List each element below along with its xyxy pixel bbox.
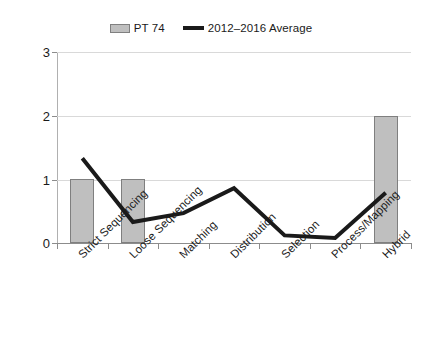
x-tick-mark-1 xyxy=(108,244,109,249)
x-tick-mark-0 xyxy=(57,244,58,249)
x-tick-mark-6 xyxy=(360,244,361,249)
chart-legend: PT 74 2012–2016 Average xyxy=(0,22,422,34)
average-line-series xyxy=(57,52,411,243)
legend-item-pt74: PT 74 xyxy=(110,22,165,34)
y-tick-1: 1 xyxy=(30,173,50,188)
chart-container: PT 74 2012–2016 Average 0 1 2 3 Strict S… xyxy=(0,0,422,352)
x-tick-mark-5 xyxy=(310,244,311,249)
y-axis-ticks: 0 1 2 3 xyxy=(30,0,50,352)
average-line-path xyxy=(82,158,385,238)
x-tick-mark-4 xyxy=(259,244,260,249)
legend-item-average: 2012–2016 Average xyxy=(183,22,312,34)
y-tick-3: 3 xyxy=(30,45,50,60)
legend-label-average: 2012–2016 Average xyxy=(208,22,312,34)
line-swatch-icon xyxy=(183,26,204,30)
x-tick-mark-7 xyxy=(411,244,412,249)
x-tick-mark-3 xyxy=(209,244,210,249)
x-tick-mark-2 xyxy=(158,244,159,249)
y-tick-0: 0 xyxy=(30,236,50,251)
y-tick-2: 2 xyxy=(30,109,50,124)
legend-label-pt74: PT 74 xyxy=(134,22,165,34)
bar-swatch-icon xyxy=(110,24,130,33)
plot-area xyxy=(57,52,411,243)
